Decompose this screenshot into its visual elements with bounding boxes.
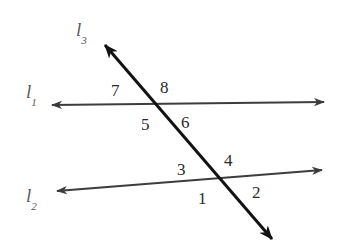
diagram-canvas	[0, 0, 342, 250]
line-l3-transversal	[105, 45, 272, 239]
line-l1	[52, 102, 324, 105]
geometry-diagram: l1 l2 l3 7 8 5 6 3 4 1 2	[0, 0, 342, 250]
line-l2	[57, 170, 322, 191]
